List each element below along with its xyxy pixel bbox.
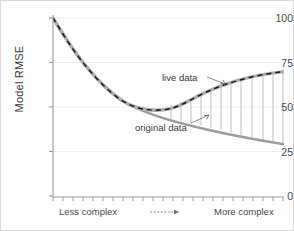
y-tick-label-0: 0 <box>247 190 293 202</box>
chart-figure: Model RMSE 100 75 50 25 0 Less complex M… <box>0 0 294 231</box>
y-tick-label-25: 25 <box>247 146 293 158</box>
y-tick-marks <box>49 18 53 196</box>
y-tick-label-100: 100 <box>247 12 293 24</box>
y-tick-label-75: 75 <box>247 57 293 69</box>
original-data-label: original data <box>135 122 187 133</box>
y-axis-label: Model RMSE <box>13 34 25 124</box>
progression-arrow-icon <box>150 209 179 214</box>
x-axis-caption-right: More complex <box>214 206 274 217</box>
x-axis-caption-left: Less complex <box>59 206 117 217</box>
live-data-label: live data <box>162 72 197 83</box>
y-tick-label-50: 50 <box>247 101 293 113</box>
